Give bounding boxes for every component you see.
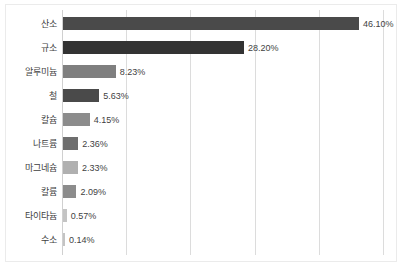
bar-row: 규소28.20%	[62, 36, 383, 60]
bar-value-label: 2.33%	[82, 156, 108, 180]
bar-row: 수소0.14%	[62, 228, 383, 252]
bar	[63, 185, 76, 198]
bar	[63, 209, 67, 222]
bar-category-label: 타이타늄	[25, 204, 57, 228]
bar	[63, 65, 116, 78]
bar-row: 철5.63%	[62, 84, 383, 108]
bar-value-label: 5.63%	[103, 84, 129, 108]
bar-category-label: 철	[49, 84, 57, 108]
bar	[63, 233, 65, 246]
bar-row: 칼륨2.09%	[62, 180, 383, 204]
bar	[63, 89, 99, 102]
bar-value-label: 0.57%	[71, 204, 97, 228]
gridline	[383, 10, 384, 255]
bar-value-label: 8.23%	[120, 60, 146, 84]
bar-category-label: 알루미늄	[25, 60, 57, 84]
bar-category-label: 칼륨	[41, 180, 57, 204]
bar-row: 산소46.10%	[62, 12, 383, 36]
bar-row: 마그네슘2.33%	[62, 156, 383, 180]
bar-category-label: 규소	[41, 36, 57, 60]
bar	[63, 17, 359, 30]
bar-category-label: 마그네슘	[25, 156, 57, 180]
bar-value-label: 28.20%	[248, 36, 279, 60]
bar-row: 알루미늄8.23%	[62, 60, 383, 84]
bar	[63, 113, 90, 126]
bar-category-label: 나트륨	[33, 132, 57, 156]
bar-row: 나트륨2.36%	[62, 132, 383, 156]
bar-value-label: 46.10%	[363, 12, 394, 36]
bar	[63, 137, 78, 150]
bar-value-label: 2.09%	[80, 180, 106, 204]
bar-chart: 산소46.10%규소28.20%알루미늄8.23%철5.63%칼슘4.15%나트…	[0, 0, 402, 269]
bar-value-label: 2.36%	[82, 132, 108, 156]
bar-row: 타이타늄0.57%	[62, 204, 383, 228]
bar-value-label: 4.15%	[94, 108, 120, 132]
plot-area: 산소46.10%규소28.20%알루미늄8.23%철5.63%칼슘4.15%나트…	[62, 10, 383, 255]
bar	[63, 41, 244, 54]
bar-value-label: 0.14%	[69, 228, 95, 252]
bar	[63, 161, 78, 174]
bar-category-label: 산소	[41, 12, 57, 36]
bar-category-label: 수소	[41, 228, 57, 252]
bar-category-label: 칼슘	[41, 108, 57, 132]
bar-row: 칼슘4.15%	[62, 108, 383, 132]
